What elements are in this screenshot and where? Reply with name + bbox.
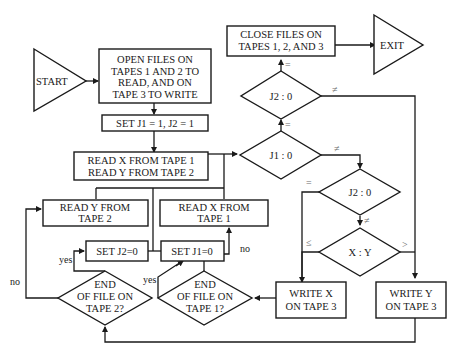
decision-j1: J1 : 0 xyxy=(240,131,321,179)
exit-terminal: EXIT xyxy=(374,15,423,74)
set-j2-zero-box: SET J2=0 xyxy=(86,241,148,261)
svg-text:READ X FROM TAPE 1: READ X FROM TAPE 1 xyxy=(88,155,195,166)
svg-text:TAPE 2?: TAPE 2? xyxy=(86,303,124,314)
close-files-box: CLOSE FILES ON TAPES 1, 2, AND 3 xyxy=(227,26,335,56)
svg-text:SET J1=0: SET J1=0 xyxy=(171,246,213,257)
svg-text:OPEN FILES ON: OPEN FILES ON xyxy=(117,54,193,65)
svg-text:X : Y: X : Y xyxy=(349,247,372,258)
svg-text:CLOSE FILES ON: CLOSE FILES ON xyxy=(240,29,322,40)
svg-text:SET J1 = 1, J2 = 1: SET J1 = 1, J2 = 1 xyxy=(116,118,194,129)
svg-text:OF FILE ON: OF FILE ON xyxy=(77,291,133,302)
flowchart: START OPEN FILES ON TAPES 1 AND 2 TO REA… xyxy=(0,0,460,359)
label-no-eof2: no xyxy=(10,276,20,287)
svg-text:END: END xyxy=(94,279,116,290)
decision-xy: X : Y xyxy=(319,228,400,276)
label-no-eof1: no xyxy=(240,243,250,254)
label-yes-eof1: yes xyxy=(143,274,156,285)
label-eq-j2top: = xyxy=(285,59,291,70)
svg-text:ON TAPE 3: ON TAPE 3 xyxy=(386,301,437,312)
write-x-box: WRITE X ON TAPE 3 xyxy=(276,282,346,318)
write-y-box: WRITE Y ON TAPE 3 xyxy=(376,282,446,318)
decision-j2-mid: J2 : 0 xyxy=(319,169,400,215)
read-y-box: READ Y FROM TAPE 2 xyxy=(43,200,148,226)
set-j1-zero-box: SET J1=0 xyxy=(161,241,224,261)
svg-text:TAPES 1 AND 2 TO: TAPES 1 AND 2 TO xyxy=(111,66,199,77)
label-gt-xy: > xyxy=(402,239,408,250)
svg-text:TAPE 3 TO WRITE: TAPE 3 TO WRITE xyxy=(112,89,197,100)
svg-text:READ X FROM: READ X FROM xyxy=(178,202,250,213)
svg-text:ON TAPE 3: ON TAPE 3 xyxy=(286,301,337,312)
label-eq-j2mid: = xyxy=(306,177,312,188)
svg-text:END: END xyxy=(194,279,216,290)
label-neq-j2top: ≠ xyxy=(332,84,338,95)
svg-text:TAPES 1, 2, AND 3: TAPES 1, 2, AND 3 xyxy=(239,41,324,52)
svg-text:READ Y FROM: READ Y FROM xyxy=(60,202,131,213)
svg-text:EXIT: EXIT xyxy=(380,40,404,51)
label-neq-j2mid: ≠ xyxy=(364,215,370,226)
decision-eof-tape2: END OF FILE ON TAPE 2? xyxy=(58,271,152,325)
svg-text:OF FILE ON: OF FILE ON xyxy=(177,291,233,302)
decision-j2-top: J2 : 0 xyxy=(241,71,321,119)
start-terminal: START xyxy=(34,49,86,111)
svg-text:START: START xyxy=(36,76,68,87)
svg-text:J2 : 0: J2 : 0 xyxy=(349,187,372,198)
svg-text:TAPE 1: TAPE 1 xyxy=(197,213,230,224)
svg-text:TAPE 1?: TAPE 1? xyxy=(186,303,224,314)
svg-text:TAPE 2: TAPE 2 xyxy=(78,213,111,224)
read-x-box: READ X FROM TAPE 1 xyxy=(160,200,268,226)
label-yes-eof2: yes xyxy=(59,254,72,265)
open-files-box: OPEN FILES ON TAPES 1 AND 2 TO READ, AND… xyxy=(99,49,211,103)
label-le-xy: ≤ xyxy=(306,237,312,248)
read-xy-box: READ X FROM TAPE 1 READ Y FROM TAPE 2 xyxy=(74,152,208,180)
svg-text:READ, AND ON: READ, AND ON xyxy=(118,77,192,88)
svg-text:SET J2=0: SET J2=0 xyxy=(96,246,138,257)
decision-eof-tape1: END OF FILE ON TAPE 1? xyxy=(158,271,252,325)
svg-text:J2 : 0: J2 : 0 xyxy=(270,91,293,102)
svg-text:WRITE Y: WRITE Y xyxy=(389,288,432,299)
svg-text:READ Y FROM TAPE 2: READ Y FROM TAPE 2 xyxy=(88,167,194,178)
label-eq-j1: = xyxy=(285,119,291,130)
label-neq-j1: ≠ xyxy=(334,143,340,154)
svg-text:J1 : 0: J1 : 0 xyxy=(270,150,293,161)
svg-text:WRITE X: WRITE X xyxy=(289,288,333,299)
set-j-box: SET J1 = 1, J2 = 1 xyxy=(102,115,208,131)
